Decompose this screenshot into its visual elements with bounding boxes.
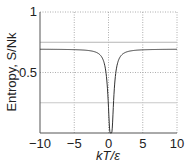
x-tick-label: −5 [67, 136, 82, 151]
y-axis-label: Entropy, S/Nk [4, 32, 19, 112]
entropy-chart: −10−50510 0.51 kT/ε Entropy, S/Nk [0, 0, 185, 165]
y-axis-ticks: 0.51 [19, 4, 37, 80]
x-tick-label: 5 [139, 136, 146, 151]
x-tick-label: 10 [170, 136, 184, 151]
x-tick-label: −10 [29, 136, 51, 151]
x-axis-label: kT/ε [96, 148, 120, 163]
y-tick-label: 1 [30, 4, 37, 19]
y-tick-label: 0.5 [19, 65, 37, 80]
